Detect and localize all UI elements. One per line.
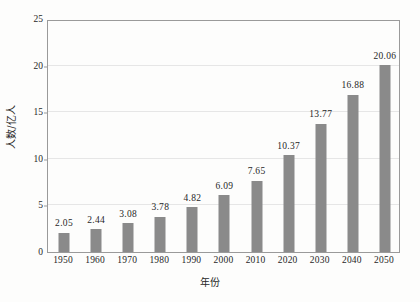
- y-tick-mark: [44, 206, 48, 207]
- y-tick-label: 20: [0, 62, 43, 72]
- x-tick-label: 2010: [240, 256, 272, 266]
- x-tick-label: 1980: [143, 256, 175, 266]
- y-axis-title: 人数/亿人: [7, 87, 17, 167]
- x-tick-label: 2020: [272, 256, 304, 266]
- x-tick-label: 1970: [111, 256, 143, 266]
- x-tick-label: 1950: [47, 256, 79, 266]
- y-tick-label: 25: [0, 15, 43, 25]
- x-tick-label: 2000: [207, 256, 239, 266]
- x-tick-label: 2050: [368, 256, 400, 266]
- y-tick-label: 5: [0, 202, 43, 212]
- y-tick-mark: [44, 113, 48, 114]
- y-tick-mark: [44, 66, 48, 67]
- y-tick-label: 0: [0, 248, 43, 258]
- x-tick-label: 2040: [336, 256, 368, 266]
- x-tick-label: 1990: [175, 256, 207, 266]
- x-tick-label: 2030: [304, 256, 336, 266]
- y-tick-mark: [44, 159, 48, 160]
- y-axis-ticks: 0510152025: [0, 20, 420, 253]
- x-tick-label: 1960: [79, 256, 111, 266]
- x-axis-title: 年份: [0, 278, 420, 288]
- x-axis-ticks: 1950196019701980199020002010202020302040…: [47, 256, 400, 272]
- bar-chart: 2.052.443.083.784.826.097.6510.3713.7716…: [0, 0, 420, 302]
